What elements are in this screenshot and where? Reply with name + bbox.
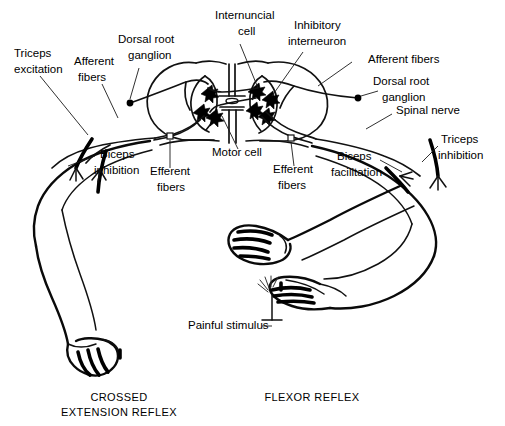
- label-triceps-inhibition-line2: inhibition: [438, 149, 483, 161]
- right-lower-finger-3: [278, 301, 314, 303]
- label-triceps-excitation-line1: Triceps: [14, 47, 52, 59]
- label-biceps-inhibition-line1: Biceps: [100, 148, 135, 160]
- label-biceps-facilitation-line2: facilitation: [331, 166, 382, 178]
- dorsal-root-ganglion-right-dot: [355, 95, 362, 102]
- label-inhibitory-interneuron-line2: interneuron: [288, 35, 346, 47]
- dorsal-root-ganglion-left-dot: [127, 100, 134, 107]
- label-dorsal-root-ganglion-right-line1: Dorsal root: [373, 75, 430, 87]
- label-internuncial-cell-line2: cell: [238, 25, 255, 37]
- label-afferent-fibers-left-line2: fibers: [78, 71, 106, 83]
- reflex-pathway-diagram: Triceps excitation Afferent fibers Dorsa…: [0, 0, 505, 426]
- label-efferent-fibers-left-line1: Efferent: [150, 165, 191, 177]
- label-afferent-fibers-left-line1: Afferent: [74, 55, 115, 67]
- label-dorsal-root-ganglion-left-line1: Dorsal root: [118, 33, 175, 45]
- label-efferent-fibers-right-line2: fibers: [278, 179, 306, 191]
- label-painful-stimulus: Painful stimulus: [188, 319, 269, 331]
- label-biceps-inhibition-line2: inhibition: [94, 164, 139, 176]
- label-efferent-fibers-right-line1: Efferent: [273, 163, 314, 175]
- label-inhibitory-interneuron-line1: Inhibitory: [294, 19, 341, 31]
- caption-crossed-extension-line2: EXTENSION REFLEX: [61, 406, 177, 418]
- efferent-marker-right: [288, 135, 294, 141]
- label-internuncial-cell-line1: Internuncial: [215, 9, 274, 21]
- label-motor-cell: Motor cell: [212, 146, 262, 158]
- label-triceps-inhibition-line1: Triceps: [441, 133, 479, 145]
- label-triceps-excitation-line2: excitation: [14, 63, 63, 75]
- caption-crossed-extension-line1: CROSSED: [90, 391, 147, 403]
- label-dorsal-root-ganglion-left-line2: ganglion: [128, 49, 171, 61]
- label-afferent-fibers-right: Afferent fibers: [368, 53, 440, 65]
- efferent-marker-left: [167, 133, 173, 139]
- label-biceps-facilitation-line1: Biceps: [337, 150, 372, 162]
- label-efferent-fibers-left-line2: fibers: [157, 181, 185, 193]
- label-spinal-nerve: Spinal nerve: [396, 104, 460, 116]
- caption-flexor-reflex: FLEXOR REFLEX: [264, 391, 359, 403]
- label-dorsal-root-ganglion-right-line2: ganglion: [382, 91, 425, 103]
